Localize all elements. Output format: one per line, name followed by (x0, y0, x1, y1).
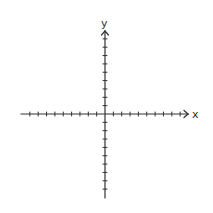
y-axis-label: y (101, 17, 108, 30)
coordinate-plane: x y (0, 0, 213, 213)
x-axis-label: x (192, 108, 199, 121)
